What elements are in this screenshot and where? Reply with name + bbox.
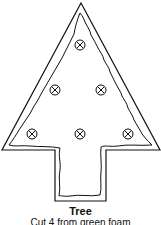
tree-pattern-drawing bbox=[0, 0, 161, 205]
cutting-instruction: Cut 4 from green foam bbox=[0, 217, 161, 225]
ornament-circle-x-icon bbox=[27, 129, 37, 139]
tree-outer-outline bbox=[2, 3, 160, 201]
ornament-circle-x-icon bbox=[50, 85, 60, 95]
ornament-circle-x-icon bbox=[75, 129, 85, 139]
ornament-circle-x-icon bbox=[75, 40, 85, 50]
pattern-title: Tree bbox=[0, 205, 161, 217]
ornament-circle-x-icon bbox=[96, 85, 106, 95]
ornament-circle-x-icon bbox=[123, 129, 133, 139]
